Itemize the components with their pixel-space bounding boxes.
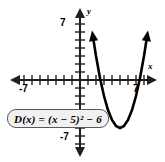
x-axis-label: x (148, 61, 153, 71)
y-axis-label: y (87, 6, 91, 16)
x-tick-label-positive-7: 7 (133, 83, 139, 94)
y-tick-label-negative-7: -7 (60, 131, 69, 142)
x-tick-label-negative-7: -7 (19, 83, 28, 94)
curve-arrowheads (87, 30, 152, 42)
coordinate-plane (0, 0, 165, 162)
graph-figure: y x -7 7 7 -7 D(x) = (x − 5)² − 6 (0, 0, 165, 162)
y-tick-label-positive-7: 7 (60, 17, 66, 28)
equation-text: D(x) = (x − 5)² − 6 (14, 113, 102, 125)
equation-label-box: D(x) = (x − 5)² − 6 (7, 109, 109, 128)
